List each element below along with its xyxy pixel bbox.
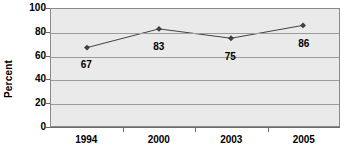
gridline [51, 33, 339, 34]
x-tick-mark [268, 128, 269, 132]
data-value-label: 67 [66, 59, 106, 70]
x-tick-mark [195, 128, 196, 132]
y-tick-mark [46, 103, 50, 104]
x-tick-label: 2005 [274, 134, 334, 146]
data-point-marker [84, 45, 90, 51]
line-chart: Percent 020406080100 1994200020032005 67… [0, 0, 351, 158]
data-point-marker [228, 35, 234, 41]
y-tick-mark [46, 8, 50, 9]
x-tick-label: 2003 [201, 134, 261, 146]
x-tick-mark [123, 128, 124, 132]
y-tick-mark [46, 56, 50, 57]
gridline [51, 80, 339, 81]
y-tick-label: 0 [14, 122, 46, 132]
gridline [51, 57, 339, 58]
y-tick-label: 20 [14, 98, 46, 108]
y-tick-mark [46, 127, 50, 128]
y-tick-label: 80 [14, 27, 46, 37]
data-point-marker [300, 22, 306, 28]
data-point-marker [156, 26, 162, 32]
series-polyline [87, 25, 303, 47]
y-tick-label: 40 [14, 74, 46, 84]
data-value-label: 83 [139, 41, 179, 52]
y-tick-mark [46, 32, 50, 33]
y-tick-label: 100 [14, 3, 46, 13]
x-tick-label: 2000 [129, 134, 189, 146]
x-tick-label: 1994 [56, 134, 116, 146]
y-tick-mark [46, 79, 50, 80]
y-tick-label: 60 [14, 51, 46, 61]
y-axis-tick-labels: 020406080100 [14, 0, 46, 158]
data-value-label: 86 [284, 38, 324, 49]
gridline [51, 104, 339, 105]
data-value-label: 75 [210, 51, 250, 62]
